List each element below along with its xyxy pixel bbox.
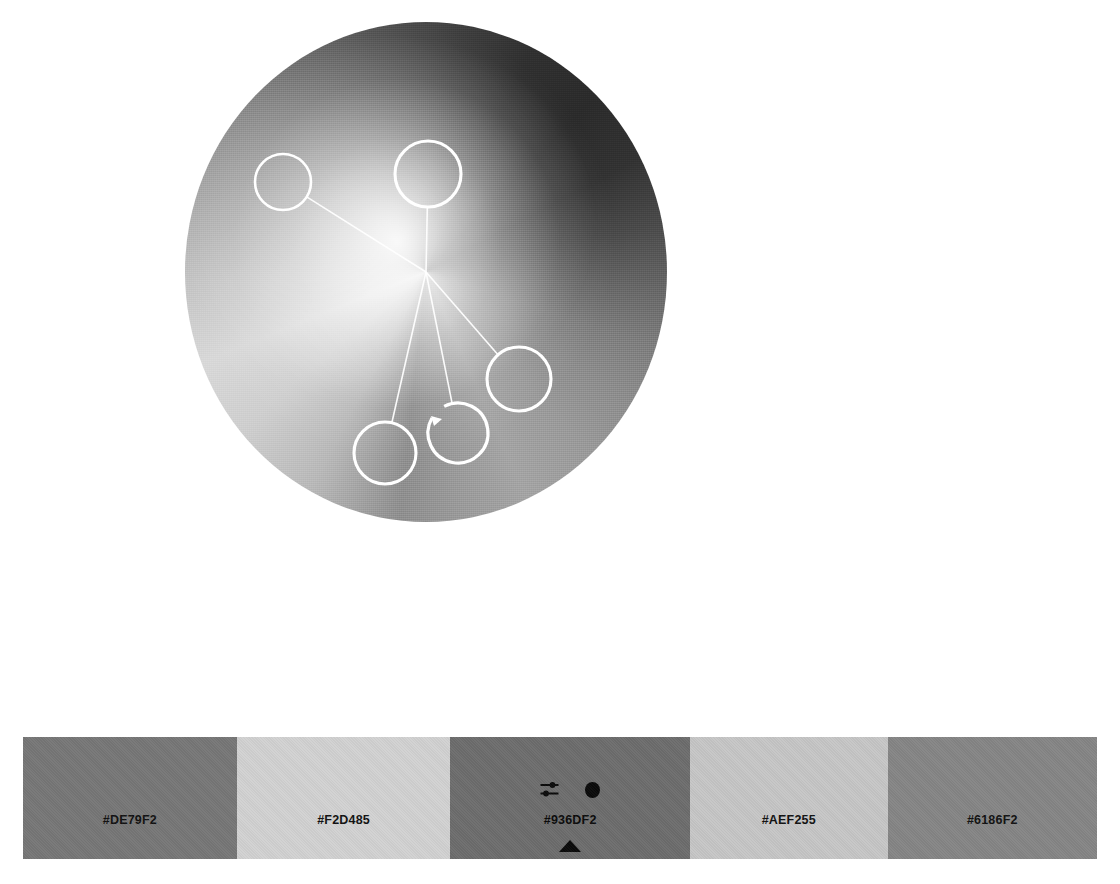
palette-swatch-bar: #DE79F2#F2D485#936DF2#AEF255#6186F2 — [23, 737, 1097, 859]
color-picker-app: #DE79F2#F2D485#936DF2#AEF255#6186F2 — [0, 0, 1120, 884]
handle-connector — [426, 207, 427, 272]
handle-rings — [255, 141, 551, 484]
handle-connector — [426, 272, 498, 355]
swatch-controls — [450, 781, 690, 798]
palette-swatch[interactable]: #DE79F2 — [23, 737, 237, 859]
handle-1[interactable] — [255, 154, 311, 210]
caret-up-icon[interactable] — [559, 840, 581, 852]
swatch-hex-label: #AEF255 — [762, 813, 816, 827]
color-wheel-area — [0, 0, 1120, 600]
color-wheel-handles — [185, 22, 667, 522]
swatch-hex-label: #936DF2 — [544, 813, 597, 827]
dot-icon[interactable] — [585, 782, 600, 798]
handle-3[interactable] — [487, 347, 551, 411]
handle-connectors — [307, 197, 498, 423]
handle-arrow-icon — [431, 416, 442, 426]
handle-connector — [392, 272, 426, 423]
handle-2[interactable] — [395, 141, 461, 207]
handle-4[interactable] — [428, 403, 488, 463]
swatch-grain — [237, 737, 451, 859]
sliders-icon[interactable] — [540, 781, 559, 798]
palette-swatch[interactable]: #F2D485 — [237, 737, 451, 859]
handle-connector — [426, 272, 452, 404]
palette-swatch[interactable]: #AEF255 — [690, 737, 888, 859]
swatch-hex-label: #F2D485 — [317, 813, 370, 827]
swatch-hex-label: #6186F2 — [967, 813, 1018, 827]
color-wheel[interactable] — [185, 22, 667, 522]
swatch-grain — [690, 737, 888, 859]
handle-5[interactable] — [354, 422, 416, 484]
handle-connector — [307, 197, 426, 272]
swatch-grain — [23, 737, 237, 859]
palette-swatch[interactable]: #6186F2 — [888, 737, 1097, 859]
swatch-grain — [888, 737, 1097, 859]
toolbar — [0, 612, 1120, 712]
swatch-hex-label: #DE79F2 — [103, 813, 157, 827]
palette-swatch[interactable]: #936DF2 — [450, 737, 690, 859]
